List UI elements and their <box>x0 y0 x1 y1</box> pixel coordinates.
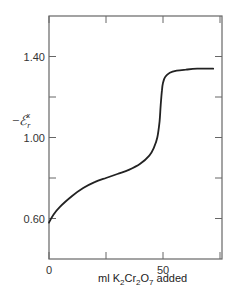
titration-chart: 050 0.601.001.40 −ℰrx ml K2Cr2O7 added <box>0 0 230 293</box>
x-axis-ticks: 050 <box>46 16 220 276</box>
x-axis-label: ml K2Cr2O7 added <box>98 272 187 287</box>
plot-frame <box>49 16 222 259</box>
y-tick-label: 1.00 <box>24 132 45 144</box>
titration-curve <box>49 69 213 223</box>
y-tick-label: 1.40 <box>24 51 45 63</box>
y-axis-label: −ℰrx <box>12 111 31 130</box>
x-tick-label: 0 <box>46 264 52 276</box>
y-axis-ticks: 0.601.001.40 <box>24 51 222 225</box>
y-tick-label: 0.60 <box>24 213 45 225</box>
